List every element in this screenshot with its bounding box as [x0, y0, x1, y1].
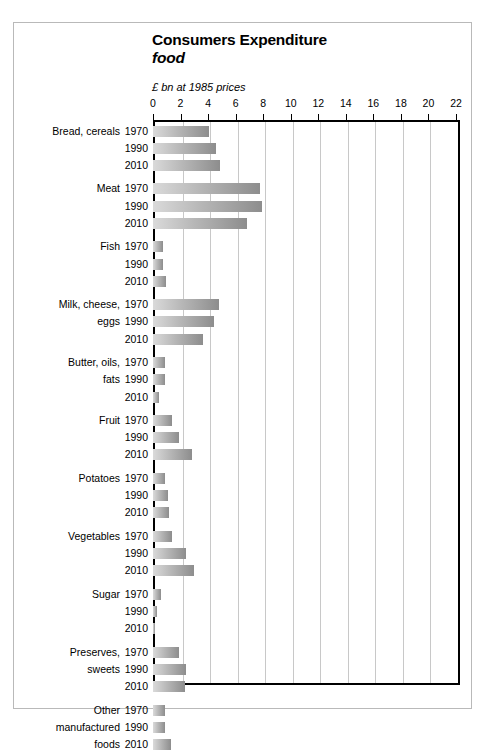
- year-label: 1990: [122, 547, 148, 559]
- year-label: 1990: [122, 489, 148, 501]
- category-label: Sugar: [14, 588, 120, 600]
- year-label: 2010: [122, 680, 148, 692]
- year-label: 1970: [122, 356, 148, 368]
- bar: [153, 299, 219, 310]
- bar-row: 1990: [14, 603, 486, 620]
- bar: [153, 739, 171, 750]
- year-label: 2010: [122, 217, 148, 229]
- category-label: Other: [14, 704, 120, 716]
- year-label: 2010: [122, 622, 148, 634]
- bar: [153, 392, 159, 403]
- bar: [153, 183, 260, 194]
- year-label: 1970: [122, 125, 148, 137]
- category-label: Fish: [14, 240, 120, 252]
- year-label: 1970: [122, 472, 148, 484]
- year-label: 1970: [122, 588, 148, 600]
- bar-row: eggs1990: [14, 313, 486, 330]
- bar: [153, 415, 172, 426]
- bar: [153, 705, 165, 716]
- year-label: 1990: [122, 373, 148, 385]
- year-label: 1990: [122, 431, 148, 443]
- category-label: foods: [14, 738, 120, 750]
- year-label: 1990: [122, 663, 148, 675]
- bar-row: Fish1970: [14, 238, 486, 255]
- bar: [153, 259, 163, 270]
- bar: [153, 473, 165, 484]
- bar-row: Milk, cheese,1970: [14, 296, 486, 313]
- bar: [153, 201, 262, 212]
- bar-row: Vegetables1970: [14, 528, 486, 545]
- bar-row: Fruit1970: [14, 412, 486, 429]
- bar-row: 2010: [14, 562, 486, 579]
- bar-row: Potatoes1970: [14, 470, 486, 487]
- bar-rows: Bread, cereals197019902010Meat1970199020…: [14, 23, 471, 708]
- bar-row: 2010: [14, 273, 486, 290]
- bar: [153, 623, 155, 634]
- year-label: 1990: [122, 142, 148, 154]
- category-label: Milk, cheese,: [14, 298, 120, 310]
- bar: [153, 507, 169, 518]
- year-label: 1990: [122, 258, 148, 270]
- bar: [153, 160, 220, 171]
- bar-row: 1990: [14, 545, 486, 562]
- bar-row: Sugar1970: [14, 586, 486, 603]
- bar: [153, 490, 168, 501]
- bar-row: 1990: [14, 256, 486, 273]
- bar-row: sweets1990: [14, 661, 486, 678]
- category-label: sweets: [14, 663, 120, 675]
- category-label: manufactured: [14, 721, 120, 733]
- year-label: 2010: [122, 333, 148, 345]
- bar: [153, 681, 185, 692]
- bar: [153, 565, 194, 576]
- bar-row: Butter, oils,1970: [14, 354, 486, 371]
- year-label: 2010: [122, 275, 148, 287]
- bar: [153, 126, 209, 137]
- bar: [153, 531, 172, 542]
- bar: [153, 432, 179, 443]
- bar-row: 1990: [14, 487, 486, 504]
- bar-row: 1990: [14, 140, 486, 157]
- bar-row: foods2010: [14, 736, 486, 753]
- bar: [153, 548, 186, 559]
- bar: [153, 647, 179, 658]
- bar-row: 2010: [14, 157, 486, 174]
- year-label: 1990: [122, 605, 148, 617]
- bar-row: 1990: [14, 198, 486, 215]
- bar: [153, 334, 203, 345]
- year-label: 1990: [122, 721, 148, 733]
- bar-row: 2010: [14, 504, 486, 521]
- year-label: 1970: [122, 704, 148, 716]
- bar-row: Meat1970: [14, 180, 486, 197]
- year-label: 2010: [122, 564, 148, 576]
- bar: [153, 664, 186, 675]
- category-label: Meat: [14, 182, 120, 194]
- bar-row: 2010: [14, 620, 486, 637]
- bar-row: Preserves,1970: [14, 644, 486, 661]
- year-label: 1990: [122, 315, 148, 327]
- year-label: 1970: [122, 414, 148, 426]
- bar-row: fats1990: [14, 371, 486, 388]
- bar-row: 2010: [14, 446, 486, 463]
- category-label: Bread, cereals: [14, 125, 120, 137]
- category-label: fats: [14, 373, 120, 385]
- category-label: Butter, oils,: [14, 356, 120, 368]
- category-label: Vegetables: [14, 530, 120, 542]
- category-label: Potatoes: [14, 472, 120, 484]
- bar: [153, 606, 157, 617]
- bar-row: 2010: [14, 331, 486, 348]
- bar: [153, 218, 247, 229]
- bar: [153, 589, 161, 600]
- bar: [153, 143, 216, 154]
- bar: [153, 357, 165, 368]
- bar-row: 1990: [14, 429, 486, 446]
- year-label: 1990: [122, 200, 148, 212]
- year-label: 1970: [122, 298, 148, 310]
- category-label: Preserves,: [14, 646, 120, 658]
- year-label: 2010: [122, 506, 148, 518]
- bar: [153, 241, 163, 252]
- year-label: 2010: [122, 738, 148, 750]
- year-label: 1970: [122, 240, 148, 252]
- year-label: 2010: [122, 391, 148, 403]
- bar-row: 2010: [14, 678, 486, 695]
- bar: [153, 316, 214, 327]
